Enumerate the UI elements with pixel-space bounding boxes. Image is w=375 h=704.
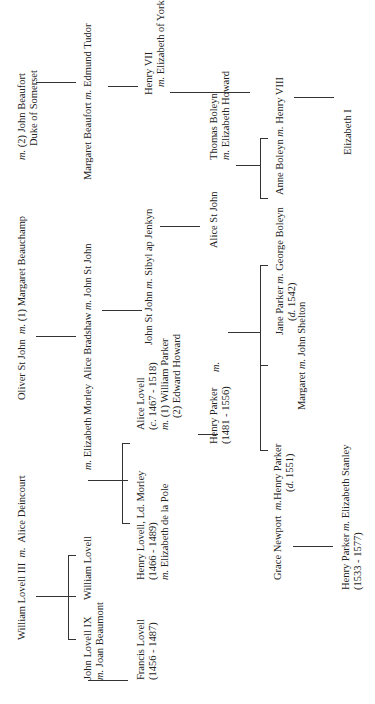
marriage-marker: m. [220,150,231,160]
spouse: Elizabeth Stanley [340,444,351,518]
name: Grace Newport [272,516,283,580]
name: Francis Lovell [135,619,147,680]
tick [260,365,268,366]
person-thomas-boleyn: Thomas Boleyn m. Elizabeth Howard [208,71,232,160]
person-john-lovell-ix: John Lovell IX m. Joan Beaumont [82,602,106,680]
person-elizabeth-i: Elizabeth I [342,109,354,155]
marriage-marker: m. [296,359,307,369]
person-oliver-st-john: Oliver St John [16,339,27,400]
marriage-marker: m. [274,126,285,136]
person-henry-vii: Henry VII m. Elizabeth of York [143,0,167,95]
person-alice-st-john: Alice St John [208,191,220,248]
name: Anne Boleyn [274,139,285,195]
dates: (1466 - 1489) [147,471,159,580]
sibling-bar [260,138,261,198]
title: Duke of Somerset [28,70,40,160]
person-jane-parker: Jane Parker m. George Boleyn (d. 1542) [274,207,298,335]
dates: (1533 - 1577) [352,444,364,590]
spouse: Elizabeth Howard [220,71,231,147]
spouse: Joan Beaumont [94,602,105,667]
marriage-marker: m. [16,324,27,334]
name: Margaret Beaufort [82,102,93,180]
sibling-bar [122,443,123,523]
dates: (1481 - 1556) [220,386,232,444]
marriage-marker: m. [272,500,283,510]
name: Jane Parker [274,286,285,335]
name: Alice Bradshaw [82,313,93,380]
spouse-2: (2) Edward Howard [171,334,183,430]
dates: 1467 - 1518) [147,362,158,419]
spouse: Edmund Tudor [82,24,93,87]
name: (2) John Beaufort [16,73,27,147]
name: Thomas Boleyn [208,71,220,160]
person-alice-deincourt: Alice Deincourt [16,475,27,542]
dates: (1456 - 1487) [147,619,159,680]
name: Henry Lovell, Ld. Morley [135,471,147,580]
name: John Lovell IX [82,602,94,680]
circa: c. [147,419,158,426]
tick [260,265,268,266]
descent-line [228,332,260,333]
marriage-marker: m. [94,670,105,680]
spouse: George Boleyn [274,207,285,271]
marriage-marker: m. [159,420,170,430]
name: Margaret [296,372,307,410]
descent-line [36,82,76,83]
descent-line [236,165,261,166]
name: Alice St John [208,191,219,248]
name: Henry Parker [340,534,351,590]
marriage-marker: m. [82,300,93,310]
died: d. [284,481,295,489]
name: Henry Parker [272,444,284,500]
person-william-lovell-iii-couple: William Lovell III m. Alice Deincourt [16,475,28,640]
tick [260,450,268,451]
spouse: John St John [82,243,93,297]
name: Henry Parker [208,386,220,444]
descent-line [108,86,138,87]
died: d. [286,310,297,318]
tick [260,198,268,199]
marriage-marker: m. [82,460,93,470]
descent-line [294,97,334,98]
tick [122,523,130,524]
dates: 1551) [284,454,295,481]
person-alice-lovell: Alice Lovell (c. 1467 - 1518) m. (1) Wil… [135,334,183,430]
descent-line [88,680,128,681]
spouse: Elizabeth de la Pole [159,483,170,567]
descent-line [102,310,142,311]
person-henry-parker-1533: Henry Parker m. Elizabeth Stanley (1533 … [340,444,364,590]
marriage-marker: m. [159,570,170,580]
spouse: Henry VIII [274,77,285,124]
marriage-marker: m. [340,521,351,531]
marriage-marker: m. [16,150,27,160]
dates: 1542) [286,283,297,310]
name: John St John [143,291,154,345]
name: Elizabeth I [342,109,353,155]
marriage-marker-parker: m. [210,362,222,372]
descent-line [160,226,200,227]
descent-line [36,596,76,597]
name: Henry VII [143,0,155,95]
person-henry-parker-1551: Henry Parker (d. 1551) [272,444,296,500]
tick [122,443,130,444]
marriage-marker: m. [82,90,93,100]
person-margaret-beauchamp: (1) Margaret Beauchamp [16,216,27,321]
person-alice-bradshaw-couple: Alice Bradshaw m. John St John [82,243,94,380]
marriage-marker: m. [155,77,166,87]
descent-line [293,546,333,547]
marriage-marker: m. [143,278,154,288]
person-william-lovell: William Lovell [82,536,94,600]
descent-line [36,336,76,337]
tick [260,138,268,139]
sibling-bar [68,555,69,639]
person-francis-lovell: Francis Lovell (1456 - 1487) [135,619,159,680]
tick [68,639,76,640]
person-anne-boleyn-couple: Anne Boleyn m. Henry VIII [274,77,286,195]
person-william-lovell-iii: William Lovell III [16,563,27,640]
person-john-beaufort: m. (2) John Beaufort Duke of Somerset [16,70,40,160]
person-henry-parker-1481: Henry Parker (1481 - 1556) [208,386,232,444]
name: Elizabeth Morley [82,384,93,457]
tick [68,555,76,556]
spouse: Sibyl ap Jenkyn [143,209,154,276]
name: William Lovell [82,536,93,600]
